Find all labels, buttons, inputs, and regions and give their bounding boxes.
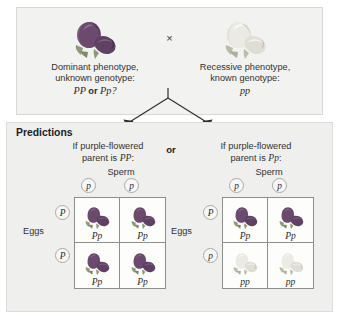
sperm-gamete-0: p — [229, 178, 244, 193]
parent-cross-panel: Dominant phenotype, unknown genotype: PP… — [16, 7, 323, 115]
prediction-heading-line1: If purple-flowered — [73, 141, 144, 151]
punnett-cell: pp — [268, 243, 313, 288]
white-pea-flower-icon — [177, 12, 313, 62]
punnett-square: Pp Pp pp — [222, 197, 314, 289]
genetics-testcross-figure: Dominant phenotype, unknown genotype: PP… — [0, 0, 339, 316]
sperm-gamete-1: p — [124, 178, 139, 193]
cell-genotype: Pp — [92, 277, 103, 287]
prediction-heading-line1: If purple-flowered — [221, 141, 292, 151]
prediction-block-pp-het: If purple-flowered parent is Pp: Sperm p… — [185, 141, 327, 302]
predictions-panel: Predictions or If purple-flowered parent… — [6, 122, 333, 312]
sperm-label: Sperm — [37, 167, 179, 177]
prediction-block-pp: If purple-flowered parent is PP: Sperm p… — [37, 141, 179, 302]
punnett-cell: Pp — [75, 243, 120, 288]
eggs-label: Eggs — [23, 226, 44, 236]
prediction-heading: If purple-flowered parent is PP: — [37, 141, 179, 165]
sperm-label: Sperm — [185, 167, 327, 177]
prediction-heading-prefix: parent is — [82, 153, 120, 163]
punnett-cell: pp — [223, 243, 268, 288]
prediction-heading: If purple-flowered parent is Pp: — [185, 141, 327, 165]
parent-right-genotype: pp — [177, 84, 313, 97]
purple-pea-flower-icon — [126, 249, 160, 277]
parent-right: Recessive phenotype, known genotype: pp — [177, 12, 313, 97]
cell-genotype: Pp — [92, 231, 103, 241]
parent-right-caption: Recessive phenotype, known genotype: — [177, 62, 313, 84]
white-pea-flower-icon — [228, 249, 262, 277]
purple-pea-flower-icon — [80, 203, 114, 231]
punnett-cell: Pp — [120, 243, 165, 288]
genotype-option-a: PP — [74, 85, 86, 96]
punnett-square-area: p p Eggs P p Pp Pp — [185, 178, 327, 302]
white-pea-flower-icon — [274, 249, 308, 277]
cell-genotype: pp — [240, 277, 250, 287]
parent-left-caption: Dominant phenotype, unknown genotype: — [27, 62, 163, 84]
genotype-conjunction: or — [88, 86, 97, 96]
punnett-square-area: p p Eggs P P Pp Pp — [37, 178, 179, 302]
parent-left: Dominant phenotype, unknown genotype: PP… — [27, 12, 163, 98]
cell-genotype: Pp — [137, 231, 148, 241]
sperm-gamete-1: p — [272, 178, 287, 193]
cell-genotype: pp — [286, 277, 296, 287]
purple-pea-flower-icon — [228, 203, 262, 231]
predictions-title: Predictions — [16, 127, 73, 138]
egg-gamete-0: P — [55, 205, 70, 220]
purple-pea-flower-icon — [126, 203, 160, 231]
punnett-square: Pp Pp Pp — [74, 197, 166, 289]
prediction-heading-suffix: : — [279, 153, 282, 163]
eggs-label: Eggs — [171, 226, 192, 236]
prediction-heading-genotype: Pp — [268, 152, 279, 163]
prediction-heading-genotype: PP — [120, 152, 132, 163]
purple-pea-flower-icon — [80, 249, 114, 277]
punnett-cell: Pp — [223, 198, 268, 243]
sperm-gamete-0: p — [81, 178, 96, 193]
punnett-cell: Pp — [75, 198, 120, 243]
punnett-cell: Pp — [120, 198, 165, 243]
punnett-cell: Pp — [268, 198, 313, 243]
genotype-option-b: Pp? — [100, 85, 116, 96]
egg-gamete-1: p — [203, 248, 218, 263]
cell-genotype: Pp — [137, 277, 148, 287]
prediction-heading-prefix: parent is — [230, 153, 268, 163]
purple-pea-flower-icon — [274, 203, 308, 231]
prediction-heading-suffix: : — [131, 153, 134, 163]
cell-genotype: Pp — [285, 231, 296, 241]
parent-left-genotype: PP or Pp? — [27, 84, 163, 98]
egg-gamete-0: P — [203, 205, 218, 220]
cell-genotype: Pp — [240, 231, 251, 241]
egg-gamete-1: P — [55, 248, 70, 263]
